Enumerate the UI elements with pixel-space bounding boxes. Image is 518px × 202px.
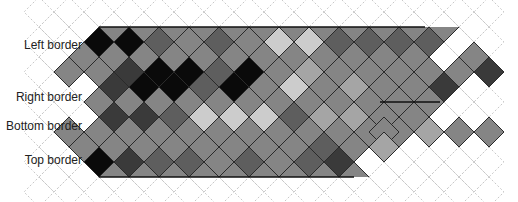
dashed-cell	[144, 0, 174, 27]
dashed-cell	[444, 177, 474, 202]
dashed-cell	[54, 177, 84, 202]
dashed-cell	[24, 177, 54, 202]
dashed-cell	[369, 162, 399, 192]
dashed-cell	[474, 147, 504, 177]
dashed-cell	[294, 177, 324, 202]
dashed-cell	[384, 177, 414, 202]
dashed-cell	[429, 162, 459, 192]
dashed-cell	[474, 0, 504, 27]
dashed-cell	[474, 177, 504, 202]
dashed-cell	[84, 177, 114, 202]
dashed-cell	[114, 177, 144, 202]
dashed-cell	[324, 177, 354, 202]
dashed-cell	[474, 87, 504, 117]
dashed-cell	[459, 12, 489, 42]
dashed-cell	[204, 0, 234, 27]
dashed-cell	[414, 177, 444, 202]
dashed-cell	[24, 0, 54, 27]
diamond-cell	[474, 117, 504, 147]
dashed-cell	[354, 177, 384, 202]
dashed-cell	[84, 0, 114, 27]
dashed-cell	[384, 0, 414, 27]
dashed-cell	[24, 57, 54, 87]
dashed-cell	[54, 0, 84, 27]
dashed-cell	[204, 177, 234, 202]
label-top-border: Top border	[25, 153, 82, 167]
dashed-cell	[414, 0, 444, 27]
dashed-cell	[354, 0, 384, 27]
dashed-cell	[264, 177, 294, 202]
label-right-border: Right border	[16, 90, 82, 104]
dashed-cell	[414, 147, 444, 177]
dashed-cell	[234, 0, 264, 27]
dashed-cell	[444, 147, 474, 177]
label-left-border: Left border	[24, 38, 82, 52]
dashed-cell	[294, 0, 324, 27]
dashed-cell	[459, 162, 489, 192]
label-bottom-border: Bottom border	[6, 119, 82, 133]
dashed-cell	[114, 0, 144, 27]
dashed-cell	[174, 0, 204, 27]
diamond-cell	[444, 117, 474, 147]
dashed-cell	[444, 0, 474, 27]
dashed-cell	[234, 177, 264, 202]
dashed-cell	[144, 177, 174, 202]
dashed-cell	[399, 162, 429, 192]
dashed-cell	[264, 0, 294, 27]
dashed-cell	[174, 177, 204, 202]
dashed-cell	[324, 0, 354, 27]
